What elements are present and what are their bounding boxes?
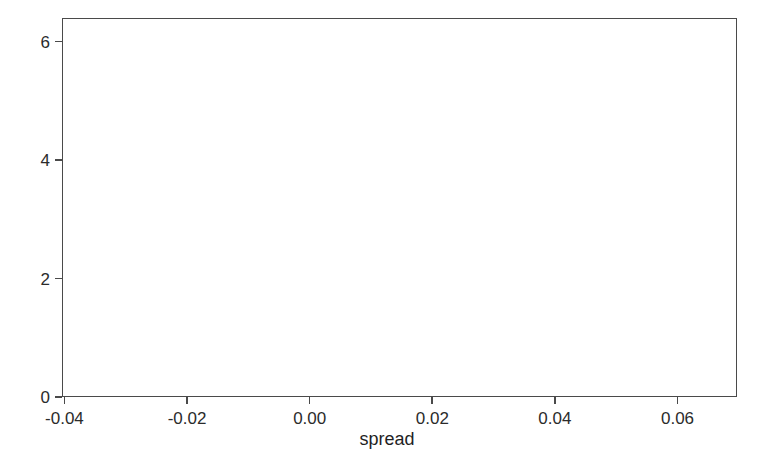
x-tick-mark [431, 397, 433, 404]
y-tick-label: 2 [10, 271, 50, 288]
y-tick-mark [55, 278, 62, 280]
y-tick-label: 4 [10, 152, 50, 169]
x-tick-mark [186, 397, 188, 404]
x-tick-label: 0.02 [416, 410, 449, 427]
y-tick-label: 0 [10, 389, 50, 406]
x-tick-label: -0.02 [168, 410, 207, 427]
histogram-chart: 0246 -0.04-0.020.000.020.040.06 spread [0, 0, 774, 464]
x-tick-mark [64, 397, 66, 404]
x-axis-title: spread [0, 430, 774, 448]
x-tick-mark [677, 397, 679, 404]
y-tick-label: 6 [10, 34, 50, 51]
y-tick-mark [55, 159, 62, 161]
x-tick-mark [309, 397, 311, 404]
plot-frame [62, 18, 737, 397]
y-tick-mark [55, 396, 62, 398]
x-tick-mark [554, 397, 556, 404]
y-tick-mark [55, 41, 62, 43]
x-tick-label: 0.06 [661, 410, 694, 427]
x-tick-label: 0.04 [538, 410, 571, 427]
x-tick-label: -0.04 [45, 410, 84, 427]
x-tick-label: 0.00 [293, 410, 326, 427]
